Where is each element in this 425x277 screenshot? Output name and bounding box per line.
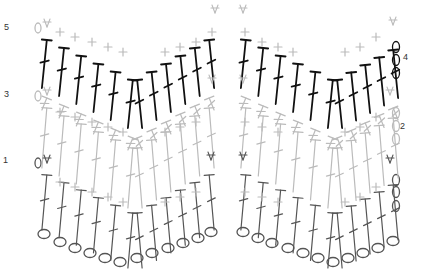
row-label-4: 4 [403, 52, 408, 62]
row-label-5: 5 [4, 22, 9, 32]
row-label-1: 1 [3, 155, 8, 165]
row-label-2: 2 [400, 121, 405, 131]
stitch-chart-svg [0, 0, 425, 277]
row-label-3: 3 [4, 89, 9, 99]
